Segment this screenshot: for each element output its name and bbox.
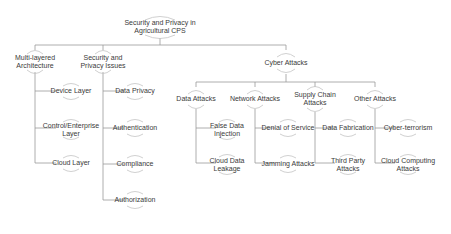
label-line1: Supply Chain (294, 91, 336, 99)
label-line1: Control/Enterprise (43, 122, 99, 130)
node-data-attacks: Data Attacks (176, 95, 215, 103)
label-line1: Other Attacks (354, 95, 396, 103)
label-line2: Injection (210, 130, 244, 138)
label-line1: Data Privacy (115, 87, 155, 95)
node-network-attacks: Network Attacks (230, 95, 280, 103)
label-line1: Jamming Attacks (262, 160, 315, 168)
label-line1: Network Attacks (230, 95, 280, 103)
node-denial-of-service: Denial of Service (262, 124, 315, 132)
label-line1: Denial of Service (262, 124, 315, 132)
node-device-layer: Device Layer (51, 87, 92, 95)
node-cloud-layer: Cloud Layer (52, 159, 90, 167)
label-line1: Cloud Computing (381, 157, 435, 165)
taxonomy-diagram: Security and Privacy in Agricultural CPS… (0, 0, 451, 234)
node-data-fabrication: Data Fabrication (322, 124, 373, 132)
root-label-line2: Agricultural CPS (124, 27, 195, 35)
connector-lines (0, 0, 451, 234)
label-line1: Authentication (113, 124, 157, 132)
label-line1: False Data (210, 122, 244, 130)
root-label-line1: Security and Privacy in (124, 19, 195, 27)
label-line1: Multi-layered (15, 54, 55, 62)
label-line1: Authorization (115, 196, 156, 204)
node-cloud-computing-attacks: Cloud Computing Attacks (381, 157, 435, 173)
label-line1: Cyber-terrorism (384, 124, 433, 132)
node-cyber-attacks: Cyber Attacks (264, 59, 307, 67)
label-line2: Layer (43, 130, 99, 138)
node-data-privacy: Data Privacy (115, 87, 155, 95)
node-other-attacks: Other Attacks (354, 95, 396, 103)
node-supply-chain-attacks: Supply Chain Attacks (294, 91, 336, 107)
label-line2: Leakage (209, 165, 244, 173)
label-line1: Device Layer (51, 87, 92, 95)
node-cloud-data-leakage: Cloud Data Leakage (209, 157, 244, 173)
node-authentication: Authentication (113, 124, 157, 132)
node-false-data-injection: False Data Injection (210, 122, 244, 138)
label-line2: Privacy Issues (80, 62, 125, 70)
label-line2: Architecture (15, 62, 55, 70)
node-jamming-attacks: Jamming Attacks (262, 160, 315, 168)
node-compliance: Compliance (117, 160, 154, 168)
node-cyber-terrorism: Cyber-terrorism (384, 124, 433, 132)
label-line1: Data Fabrication (322, 124, 373, 132)
label-line1: Cloud Data (209, 157, 244, 165)
node-multi-layered-architecture: Multi-layered Architecture (15, 54, 55, 70)
label-line1: Security and (80, 54, 125, 62)
node-control-enterprise-layer: Control/Enterprise Layer (43, 122, 99, 138)
node-third-party-attacks: Third Party Attacks (331, 157, 365, 173)
label-line1: Compliance (117, 160, 154, 168)
label-line1: Cyber Attacks (264, 59, 307, 67)
node-authorization: Authorization (115, 196, 156, 204)
root-node: Security and Privacy in Agricultural CPS (124, 19, 195, 35)
label-line1: Third Party (331, 157, 365, 165)
node-security-privacy-issues: Security and Privacy Issues (80, 54, 125, 70)
label-line1: Data Attacks (176, 95, 215, 103)
label-line2: Attacks (331, 165, 365, 173)
label-line2: Attacks (381, 165, 435, 173)
label-line1: Cloud Layer (52, 159, 90, 167)
label-line2: Attacks (294, 99, 336, 107)
